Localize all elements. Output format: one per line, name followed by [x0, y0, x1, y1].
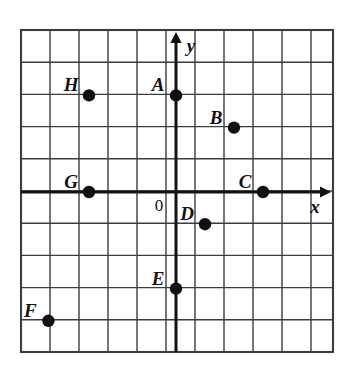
data-point-d — [199, 218, 211, 230]
point-label-d: D — [180, 204, 194, 223]
x-axis-label: x — [310, 197, 320, 216]
data-point-b — [228, 121, 240, 133]
point-label-a: A — [152, 75, 165, 94]
coordinate-plane-figure: ABCDEFGH y x 0 — [0, 0, 349, 373]
data-point-f — [42, 315, 54, 327]
y-axis-arrowhead-icon — [170, 32, 181, 43]
point-label-h: H — [64, 75, 79, 94]
data-point-h — [83, 89, 95, 101]
point-label-f: F — [24, 300, 37, 319]
data-point-c — [257, 186, 269, 198]
coordinate-plane-svg — [0, 0, 349, 373]
point-label-c: C — [239, 172, 252, 191]
data-point-a — [170, 89, 182, 101]
data-point-e — [170, 282, 182, 294]
y-axis-label: y — [187, 36, 195, 55]
x-axis-arrowhead-icon — [320, 186, 331, 197]
point-label-e: E — [152, 268, 165, 287]
origin-label: 0 — [155, 197, 164, 214]
point-label-g: G — [64, 172, 78, 191]
point-label-b: B — [210, 107, 223, 126]
data-point-g — [83, 186, 95, 198]
